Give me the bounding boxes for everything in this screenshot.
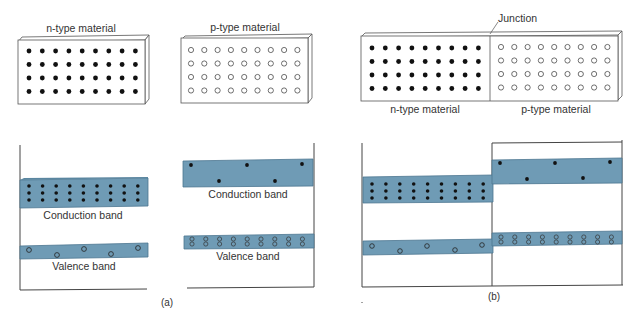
p-type-label-a: p-type material xyxy=(210,21,279,33)
conduction-electrons xyxy=(370,182,485,200)
p-valence-band-label-a: Valence band xyxy=(216,250,280,262)
n-conduction-band-label-a: Conduction band xyxy=(43,209,123,221)
conduction-electrons xyxy=(27,184,139,202)
p-type-block-a xyxy=(181,34,312,103)
p-energy-diagram-a xyxy=(183,143,314,288)
n-type-block-a xyxy=(18,35,149,104)
n-valence-band-label-a: Valence band xyxy=(52,260,116,272)
caption-a: (a) xyxy=(161,297,173,308)
p-type-label-b: p-type material xyxy=(521,103,590,115)
pn-junction-block-b xyxy=(361,22,622,101)
pn-junction-diagram: n-type material p-type material Conducti… xyxy=(0,0,640,322)
p-conduction-band-label-a: Conduction band xyxy=(208,188,288,200)
n-type-label-a: n-type material xyxy=(46,22,115,34)
junction-label: Junction xyxy=(498,12,537,24)
n-type-label-b: n-type material xyxy=(390,103,459,115)
energy-diagram-b xyxy=(362,140,623,303)
caption-b: (b) xyxy=(488,291,500,302)
